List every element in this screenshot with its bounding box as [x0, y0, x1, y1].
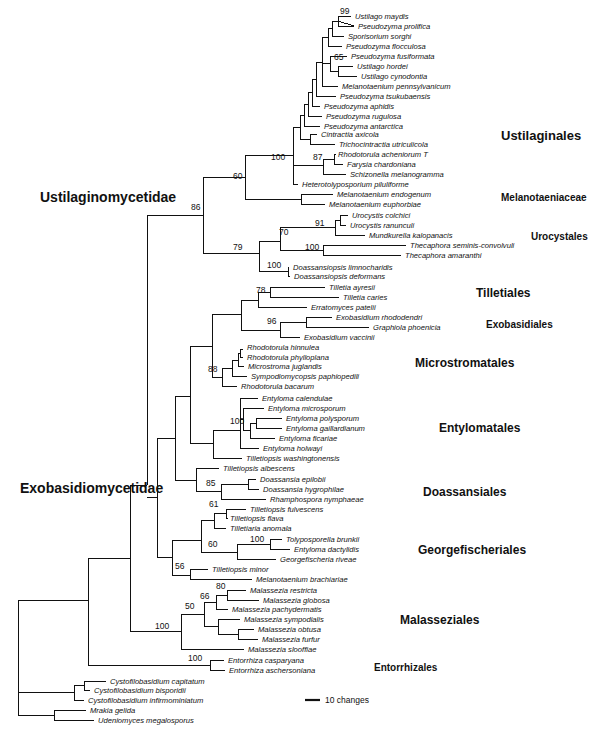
support-value: 70 — [279, 227, 289, 237]
taxon-label: Doassansia hygrophilae — [263, 485, 344, 494]
support-value: 80 — [216, 581, 226, 591]
taxon-label: Entyloma gaillardianum — [286, 424, 365, 433]
support-value: 56 — [175, 561, 185, 571]
subclass-label: Exobasidiomycetidae — [20, 480, 163, 496]
order-label: Tilletiales — [476, 286, 531, 300]
support-value: 100 — [188, 653, 202, 663]
taxon-label: Entorrhiza aschersoniana — [229, 666, 315, 675]
taxon-label: Entyloma microsporum — [268, 404, 346, 413]
support-value: 91 — [315, 218, 325, 228]
support-value: 100 — [305, 242, 319, 252]
taxon-label: Entyloma dactylidis — [294, 545, 359, 554]
taxon-label: Ustilago maydis — [355, 12, 409, 21]
taxon-label: Malassezia sympodialis — [244, 615, 324, 624]
order-label: Georgefischeriales — [418, 543, 526, 557]
taxon-label: Heterotolyposporium piluliforme — [302, 180, 409, 189]
taxon-label: Entorrhiza casparyana — [228, 656, 304, 665]
support-value: 60 — [233, 171, 243, 181]
taxon-label: Pseudozyma fusiformata — [351, 52, 435, 61]
taxon-label: Erratomyces patelii — [311, 303, 376, 312]
taxon-label: Melanotaenium endogenum — [337, 190, 431, 199]
taxon-label: Melanotaenium euphorbiae — [329, 200, 421, 209]
support-value: 60 — [208, 539, 218, 549]
support-value: 79 — [233, 242, 243, 252]
taxon-label: Malassezia restricta — [250, 586, 317, 595]
taxon-label: Sympodiomycopsis paphiopedili — [251, 372, 359, 381]
taxon-label: Pseudozyma rugulosa — [326, 112, 401, 121]
taxon-label: Pseudozyma tsukubaensis — [340, 92, 431, 101]
order-label: Entylomatales — [439, 421, 521, 435]
order-label: Microstromatales — [415, 356, 515, 370]
taxon-label: Ustilago hordei — [357, 62, 408, 71]
order-label: Exobasidiales — [486, 319, 553, 330]
taxon-label: Malassezia furfur — [262, 635, 320, 644]
taxon-label: Melanotaenium brachiariae — [256, 575, 348, 584]
taxon-label: Trichocintractia utriculicola — [339, 140, 428, 149]
taxon-label: Udeniomyces megalosporus — [98, 716, 194, 725]
support-value: 87 — [313, 152, 323, 162]
support-value: 61 — [209, 499, 219, 509]
taxon-label: Ustilago cynodontia — [361, 72, 427, 81]
taxon-label: Rhodotorula acheniorum T — [338, 150, 429, 159]
taxon-label: Tilletiaria anomala — [230, 524, 292, 533]
taxon-label: Malassezia globosa — [263, 596, 330, 605]
order-label: Ustilaginales — [501, 128, 581, 143]
branch — [338, 21, 354, 26]
taxon-label: Cintractia axicola — [321, 130, 379, 139]
order-label: Entorrhizales — [374, 662, 438, 673]
taxon-label: Tilletiopsis albescens — [223, 464, 295, 473]
taxon-label: Tilletiopsis fulvescens — [250, 505, 324, 514]
support-value: 88 — [208, 364, 218, 374]
taxon-label: Malassezia slooffiae — [248, 645, 316, 654]
taxon-label: Pseudozyma aphidis — [324, 102, 394, 111]
taxon-label: Entyloma calendulae — [262, 394, 333, 403]
order-label: Malasseziales — [400, 613, 480, 627]
support-value: 96 — [267, 316, 277, 326]
taxon-label: Malassezia pachydermatis — [232, 605, 322, 614]
taxon-label: Mundkurella kalopanacis — [369, 231, 453, 240]
taxon-label: Schizonella melanogramma — [350, 170, 444, 179]
taxon-label: Doassansia epilobii — [260, 475, 326, 484]
taxon-label: Georgefischeria riveae — [280, 555, 356, 564]
taxon-label: Rhodotorula hinnulea — [247, 343, 319, 352]
order-label: Urocystales — [531, 231, 588, 242]
support-value: 65 — [334, 52, 344, 62]
taxon-label: Exobasidium vaccinii — [304, 333, 375, 342]
taxon-label: Tolyposporella brunkii — [286, 535, 359, 544]
support-value: 100 — [250, 534, 264, 544]
taxon-label: Exobasidium rhododendri — [336, 313, 422, 322]
taxon-label: Cystofilobasidium capitatum — [110, 677, 205, 686]
support-value: 50 — [185, 601, 195, 611]
taxon-label: Microstroma juglandis — [248, 362, 322, 371]
order-label: Melanotaeniaceae — [501, 192, 587, 203]
taxon-label: Tilletiopsis minor — [212, 565, 269, 574]
subclass-label: Ustilaginomycetidae — [40, 189, 176, 205]
subclass-labels: UstilaginomycetidaeExobasidiomycetidae — [20, 189, 176, 496]
support-value: 86 — [191, 202, 201, 212]
scale-bar-label: 10 changes — [325, 695, 369, 705]
support-value: 66 — [200, 591, 210, 601]
taxon-label: Cystofilobasidium bisporidii — [94, 686, 186, 695]
order-label: Doassansiales — [423, 485, 507, 499]
taxon-label: Pseudozyma prolifica — [358, 22, 430, 31]
support-value: 99 — [340, 6, 350, 16]
support-value: 78 — [256, 285, 266, 295]
taxon-label: Doassansiopsis limnocharidis — [293, 263, 393, 272]
support-value: 100 — [267, 260, 281, 270]
taxon-label: Rhodotorula bacarum — [241, 382, 314, 391]
taxon-label: Entyloma holwayi — [263, 444, 322, 453]
taxon-label: Urocystis ranunculi — [350, 221, 414, 230]
support-value: 100 — [230, 416, 244, 426]
taxon-label: Cystofilobasidium infirmominiatum — [88, 696, 203, 705]
support-value: 100 — [155, 621, 169, 631]
taxon-label: Farysia chardoniana — [347, 160, 416, 169]
taxon-label: Entyloma polysporum — [286, 414, 359, 423]
taxon-label: Tilletiopsis washingtonensis — [246, 454, 340, 463]
taxon-label: Rhamphospora nymphaeae — [270, 495, 364, 504]
taxon-label: Tilletia ayresii — [329, 283, 375, 292]
taxon-label: Doassansiopsis deformans — [294, 272, 385, 281]
phylogenetic-tree: 9965100876086917010079100789688100856160… — [0, 0, 607, 738]
taxon-label: Rhodotorula phylloplana — [247, 353, 329, 362]
taxon-label: Malassezia obtusa — [258, 625, 321, 634]
taxon-label: Thecaphora amaranthi — [405, 251, 482, 260]
